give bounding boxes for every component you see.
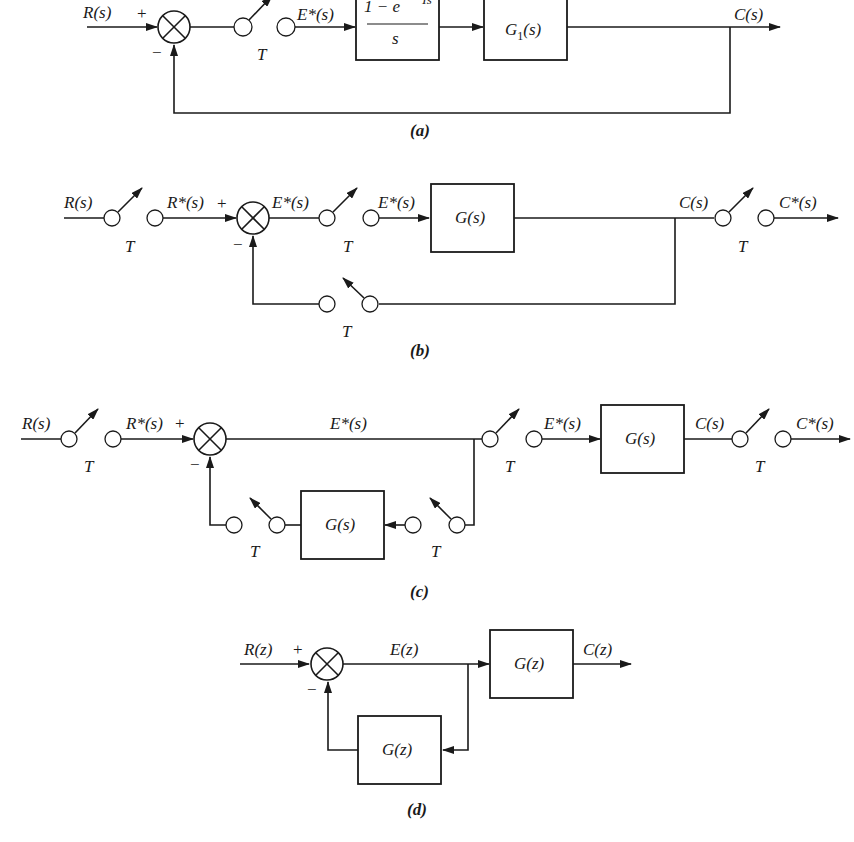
feedback-path — [174, 27, 730, 113]
plant-block: G(z) — [490, 630, 573, 698]
feedback-sampler-left — [226, 498, 285, 533]
svg-text:+: + — [217, 194, 227, 213]
error-sampler — [319, 188, 379, 226]
feedback-sampler — [319, 278, 378, 312]
label-error: E*(s) — [271, 193, 309, 212]
svg-text:T: T — [342, 322, 353, 341]
feedback-sampler-right — [430, 498, 465, 533]
label-output: C(s) — [679, 193, 709, 212]
diagram-a: R(s) + − T E*(s) 1 − e −Ts s G1(s) — [82, 0, 780, 140]
plant-block: G(s) — [601, 405, 684, 473]
label-output: C(z) — [583, 640, 613, 659]
svg-text:T: T — [343, 237, 354, 256]
feedback-block: G(s) — [301, 491, 384, 559]
summing-junction — [158, 11, 190, 43]
svg-text:T: T — [738, 237, 749, 256]
svg-text:+: + — [175, 414, 185, 433]
block-diagrams: R(s) + − T E*(s) 1 − e −Ts s G1(s) — [0, 0, 854, 842]
zero-order-hold-block: 1 − e −Ts s — [356, 0, 439, 60]
caption-c: (c) — [410, 582, 429, 601]
output-sampler — [732, 409, 791, 447]
plant-block: G(s) — [431, 184, 514, 252]
svg-text:−: − — [190, 455, 200, 474]
svg-text:G(s): G(s) — [325, 515, 356, 534]
summing-junction — [194, 423, 226, 455]
caption-a: (a) — [410, 121, 430, 140]
svg-text:T: T — [125, 237, 136, 256]
label-sampling-period: T — [257, 45, 268, 64]
svg-text:T: T — [755, 457, 766, 476]
label-output: C(s) — [695, 414, 725, 433]
summing-junction — [311, 648, 343, 680]
svg-text:−: − — [307, 680, 317, 699]
diagram-c: R(s) T R*(s) + − E*(s) T E*(s) G(s) — [21, 405, 850, 601]
svg-text:T: T — [84, 457, 95, 476]
diagram-b: R(s) T R*(s) + − E*(s) T E*(s) G(s) — [63, 184, 838, 360]
output-sampler — [715, 188, 774, 226]
label-sampled-output: C*(s) — [779, 193, 817, 212]
label-error: E*(s) — [329, 414, 367, 433]
svg-text:−: − — [233, 235, 243, 254]
label-input: R(s) — [82, 3, 112, 22]
svg-text:+: + — [293, 640, 303, 659]
label-input: R(s) — [21, 414, 51, 433]
caption-b: (b) — [410, 341, 430, 360]
svg-text:s: s — [392, 29, 399, 48]
input-sampler — [61, 409, 121, 447]
label-input: R(z) — [243, 640, 273, 659]
label-input: R(s) — [63, 193, 93, 212]
summing-junction — [237, 202, 269, 234]
label-sampled-input: R*(s) — [166, 193, 204, 212]
label-sampled-error: E*(s) — [296, 5, 334, 24]
plant-block-g1: G1(s) — [484, 0, 567, 60]
error-sampler — [482, 409, 542, 447]
input-sampler — [104, 188, 163, 226]
svg-text:G(z): G(z) — [514, 654, 545, 673]
feedback-block: G(z) — [358, 716, 441, 784]
label-error: E(z) — [389, 640, 419, 659]
sign-minus: − — [152, 43, 162, 62]
svg-text:T: T — [505, 457, 516, 476]
diagram-d: R(z) + − E(z) G(z) C(z) G(z) (d) — [240, 630, 631, 819]
svg-text:G(z): G(z) — [382, 740, 413, 759]
label-sampled-output: C*(s) — [796, 414, 834, 433]
sign-plus: + — [137, 4, 147, 23]
svg-text:T: T — [431, 542, 442, 561]
svg-text:−Ts: −Ts — [412, 0, 432, 7]
svg-text:G(s): G(s) — [455, 208, 486, 227]
label-sampled-error: E*(s) — [377, 193, 415, 212]
caption-d: (d) — [407, 800, 427, 819]
svg-text:1 − e: 1 − e — [364, 0, 400, 16]
svg-text:G(s): G(s) — [625, 429, 656, 448]
sampler-switch — [234, 0, 295, 36]
label-sampled-input: R*(s) — [125, 414, 163, 433]
label-sampled-error: E*(s) — [543, 414, 581, 433]
svg-text:T: T — [250, 542, 261, 561]
label-output: C(s) — [734, 5, 764, 24]
